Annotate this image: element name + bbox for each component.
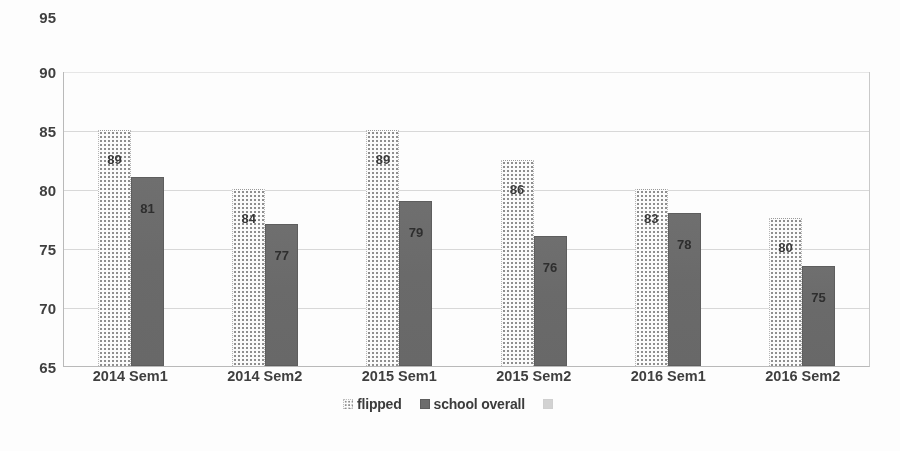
legend-item-school-overall[interactable]: school overall xyxy=(420,396,525,412)
bar-value-label: 80 xyxy=(770,241,801,254)
legend-item-blank[interactable] xyxy=(543,399,557,409)
legend-label: flipped xyxy=(357,396,401,412)
bar-school-overall: 75 xyxy=(802,266,835,366)
bar-flipped: 80 xyxy=(769,218,802,366)
y-axis: 95 90 85 80 75 70 65 xyxy=(0,0,56,400)
bar-value-label: 79 xyxy=(400,226,431,239)
bar-value-label: 89 xyxy=(99,153,130,166)
solid-gray-swatch-icon xyxy=(420,399,430,409)
y-tick-label-80: 80 xyxy=(0,182,56,199)
bar-value-label: 75 xyxy=(803,291,834,304)
y-tick-label-75: 75 xyxy=(0,241,56,258)
plot-area: 89 81 84 77 89 7 xyxy=(63,72,870,367)
y-tick-label-85: 85 xyxy=(0,123,56,140)
bar-group: 86 76 xyxy=(467,72,601,366)
x-tick-label: 2016 Sem2 xyxy=(736,368,871,384)
bar-groups: 89 81 84 77 89 7 xyxy=(64,72,869,366)
bar-group: 84 77 xyxy=(198,72,332,366)
bar-value-label: 83 xyxy=(636,212,667,225)
bar-flipped: 89 xyxy=(366,130,399,366)
bar-value-label: 77 xyxy=(266,249,297,262)
x-tick-label: 2014 Sem2 xyxy=(198,368,333,384)
legend-label: school overall xyxy=(434,396,525,412)
dotted-swatch-icon xyxy=(343,399,353,409)
bar-group: 89 81 xyxy=(64,72,198,366)
bar-chart: 95 90 85 80 75 70 65 89 81 xyxy=(0,0,900,451)
bar-value-label: 84 xyxy=(233,212,264,225)
x-tick-label: 2016 Sem1 xyxy=(601,368,736,384)
bar-flipped: 83 xyxy=(635,189,668,366)
x-tick-label: 2015 Sem1 xyxy=(332,368,467,384)
x-tick-label: 2015 Sem2 xyxy=(467,368,602,384)
bar-value-label: 86 xyxy=(502,183,533,196)
bar-flipped: 86 xyxy=(501,160,534,366)
y-tick-label-70: 70 xyxy=(0,300,56,317)
bar-value-label: 78 xyxy=(669,238,700,251)
y-tick-label-65: 65 xyxy=(0,359,56,376)
x-axis: 2014 Sem1 2014 Sem2 2015 Sem1 2015 Sem2 … xyxy=(63,368,870,384)
bar-group: 89 79 xyxy=(332,72,466,366)
bar-value-label: 81 xyxy=(132,202,163,215)
bar-value-label: 76 xyxy=(535,261,566,274)
bar-group: 80 75 xyxy=(735,72,869,366)
blank-gray-swatch-icon xyxy=(543,399,553,409)
bar-flipped: 89 xyxy=(98,130,131,366)
y-tick-label-95: 95 xyxy=(0,9,56,26)
bar-group: 83 78 xyxy=(601,72,735,366)
bar-flipped: 84 xyxy=(232,189,265,366)
bar-school-overall: 76 xyxy=(534,236,567,366)
bar-school-overall: 77 xyxy=(265,224,298,366)
bar-school-overall: 78 xyxy=(668,213,701,366)
y-tick-label-90: 90 xyxy=(0,64,56,81)
legend-item-flipped[interactable]: flipped xyxy=(343,396,401,412)
bar-value-label: 89 xyxy=(367,153,398,166)
x-tick-label: 2014 Sem1 xyxy=(63,368,198,384)
bar-school-overall: 81 xyxy=(131,177,164,366)
bar-school-overall: 79 xyxy=(399,201,432,366)
chart-legend: flipped school overall xyxy=(0,396,900,412)
